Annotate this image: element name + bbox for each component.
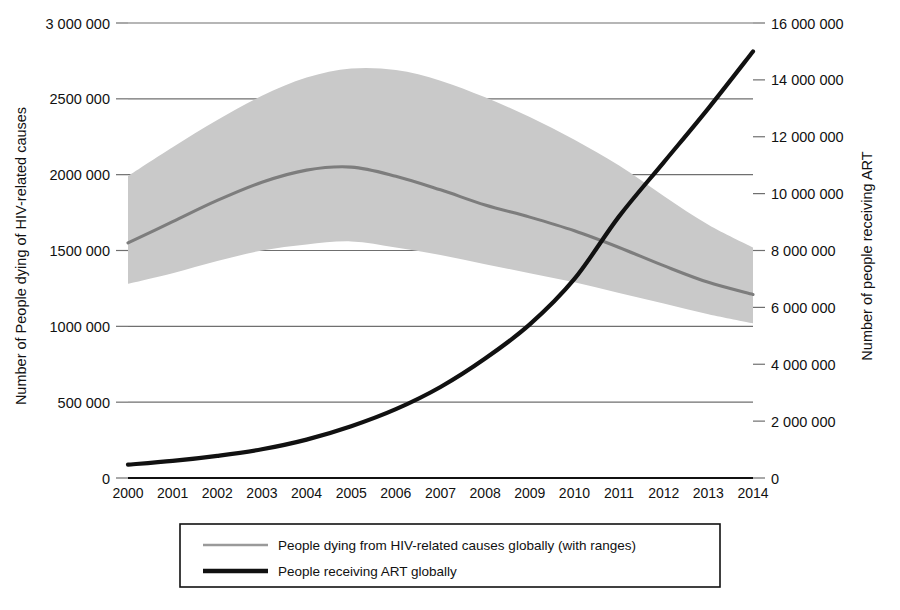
right-tick-label: 16 000 000	[771, 16, 844, 32]
left-axis-title: Number of People dying of HIV-related ca…	[13, 107, 29, 405]
right-tick-label: 14 000 000	[771, 72, 844, 88]
left-tick-label: 1000 000	[50, 319, 110, 335]
left-tick-label: 0	[102, 471, 110, 487]
x-axis-ticks: 2000200120022003200420052006200720082009…	[112, 485, 768, 501]
x-tick-label: 2008	[470, 485, 501, 501]
right-tick-label: 12 000 000	[771, 129, 844, 145]
legend-label-art: People receiving ART globally	[278, 564, 457, 579]
x-tick-label: 2010	[559, 485, 590, 501]
x-tick-label: 2007	[425, 485, 456, 501]
right-axis-title: Number of people receiving ART	[859, 151, 875, 360]
chart-figure: 0500 0001000 0001500 0002000 0002500 000…	[0, 0, 900, 610]
x-tick-label: 2006	[380, 485, 411, 501]
left-tick-label: 2500 000	[50, 91, 110, 107]
x-tick-label: 2005	[336, 485, 367, 501]
x-tick-label: 2014	[737, 485, 768, 501]
x-tick-label: 2000	[112, 485, 143, 501]
x-tick-label: 2011	[604, 485, 634, 501]
right-tick-label: 10 000 000	[771, 186, 844, 202]
right-tick-label: 0	[771, 471, 779, 487]
left-tick-label: 500 000	[58, 395, 110, 411]
x-tick-label: 2009	[514, 485, 545, 501]
right-tick-label: 8 000 000	[771, 243, 836, 259]
x-tick-label: 2002	[202, 485, 233, 501]
x-tick-label: 2013	[693, 485, 724, 501]
legend-label-deaths: People dying from HIV-related causes glo…	[278, 538, 636, 553]
right-tick-label: 4 000 000	[771, 357, 836, 373]
left-tick-label: 1500 000	[50, 243, 110, 259]
left-tick-label: 2000 000	[50, 167, 110, 183]
right-tick-label: 2 000 000	[771, 414, 836, 430]
legend: People dying from HIV-related causes glo…	[180, 524, 720, 587]
x-tick-label: 2004	[291, 485, 322, 501]
left-tick-label: 3 000 000	[45, 16, 110, 32]
hiv-deaths-vs-art-chart: 0500 0001000 0001500 0002000 0002500 000…	[0, 0, 900, 610]
right-tick-label: 6 000 000	[771, 300, 836, 316]
x-tick-label: 2003	[246, 485, 277, 501]
x-tick-label: 2001	[157, 485, 188, 501]
x-tick-label: 2012	[648, 485, 679, 501]
